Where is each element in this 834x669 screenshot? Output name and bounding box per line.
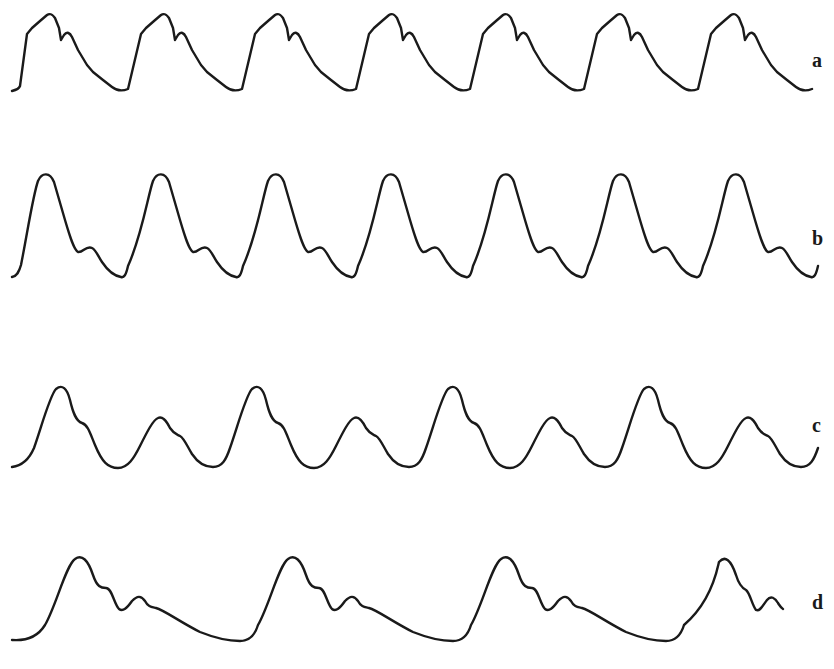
trace-a xyxy=(12,14,812,91)
waveform-figure xyxy=(0,0,834,669)
trace-b xyxy=(12,174,818,277)
trace-d xyxy=(12,557,783,641)
label-d: d xyxy=(812,592,823,612)
label-c: c xyxy=(812,415,821,435)
label-b: b xyxy=(812,228,823,248)
label-a: a xyxy=(812,50,822,70)
trace-c xyxy=(12,387,818,468)
